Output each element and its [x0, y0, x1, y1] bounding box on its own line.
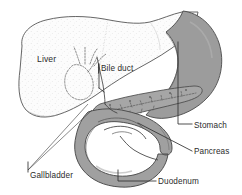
organ-duodenum — [75, 109, 172, 187]
label-bile-duct: Bile duct — [101, 64, 134, 73]
label-pancreas: Pancreas — [194, 147, 229, 156]
label-duodenum: Duodenum — [158, 177, 199, 186]
anatomy-figure: Liver Bile duct Gallbladder Stomach Panc… — [0, 0, 242, 195]
label-gallbladder: Gallbladder — [30, 171, 73, 180]
bile-duct-label-rule — [98, 64, 99, 74]
label-liver: Liver — [37, 54, 56, 64]
label-stomach: Stomach — [194, 121, 227, 130]
